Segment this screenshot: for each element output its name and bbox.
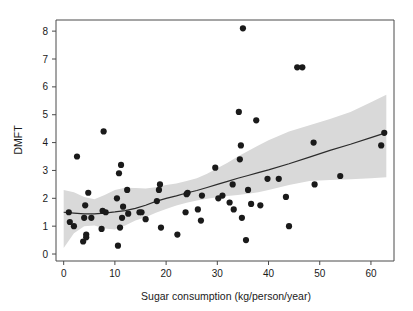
scatter-point	[236, 109, 242, 115]
scatter-point	[120, 204, 126, 210]
scatter-point	[227, 199, 233, 205]
y-axis-title: DMFT	[12, 125, 24, 155]
scatter-point	[238, 142, 244, 148]
scatter-point	[257, 202, 263, 208]
scatter-point	[82, 202, 88, 208]
confidence-band	[64, 95, 387, 248]
scatter-point	[378, 142, 384, 148]
scatter-point	[248, 201, 254, 207]
x-tick-label: 0	[61, 268, 67, 279]
scatter-point	[312, 181, 318, 187]
scatter-point	[88, 215, 94, 221]
scatter-point	[245, 187, 251, 193]
scatter-point	[116, 170, 122, 176]
scatter-point	[158, 224, 164, 230]
scatter-point	[66, 209, 72, 215]
scatter-point	[337, 173, 343, 179]
scatter-point	[157, 181, 163, 187]
y-tick-label: 5	[42, 109, 48, 120]
scatter-point	[185, 190, 191, 196]
scatter-point	[381, 130, 387, 136]
x-tick-label: 20	[161, 268, 173, 279]
scatter-point	[154, 198, 160, 204]
scatter-point	[276, 176, 282, 182]
scatter-point	[103, 209, 109, 215]
scatter-point	[286, 223, 292, 229]
scatter-point	[253, 117, 259, 123]
scatter-point	[199, 192, 205, 198]
y-tick-label: 2	[42, 193, 48, 204]
scatter-point	[114, 195, 120, 201]
scatter-point	[98, 226, 104, 232]
scatter-point	[143, 216, 149, 222]
confidence-band-group	[64, 95, 387, 248]
scatter-point	[230, 181, 236, 187]
y-axis-ticks: 012345678	[42, 26, 56, 260]
scatter-point	[124, 187, 130, 193]
scatter-plot-figure: 0102030405060 012345678 Sugar consumptio…	[0, 0, 413, 311]
scatter-point	[299, 64, 305, 70]
scatter-point	[74, 153, 80, 159]
scatter-point	[195, 206, 201, 212]
y-tick-label: 1	[42, 221, 48, 232]
y-tick-label: 3	[42, 165, 48, 176]
y-tick-label: 7	[42, 54, 48, 65]
scatter-point	[243, 237, 249, 243]
scatter-point	[125, 211, 131, 217]
scatter-point	[101, 128, 107, 134]
x-tick-label: 30	[212, 268, 224, 279]
scatter-point	[212, 165, 218, 171]
scatter-point	[239, 215, 245, 221]
scatter-point	[81, 215, 87, 221]
scatter-point	[264, 176, 270, 182]
scatter-point	[119, 215, 125, 221]
scatter-point	[219, 192, 225, 198]
chart-canvas: 0102030405060 012345678 Sugar consumptio…	[0, 0, 413, 311]
x-axis-title: Sugar consumption (kg/person/year)	[141, 290, 311, 302]
scatter-point	[237, 156, 243, 162]
scatter-point	[138, 209, 144, 215]
y-tick-label: 4	[42, 137, 48, 148]
x-tick-label: 10	[109, 268, 121, 279]
scatter-point	[240, 25, 246, 31]
scatter-point	[182, 209, 188, 215]
x-axis-ticks: 0102030405060	[61, 261, 377, 279]
scatter-point	[198, 218, 204, 224]
x-tick-label: 60	[365, 268, 377, 279]
scatter-point	[156, 187, 162, 193]
scatter-point	[174, 231, 180, 237]
scatter-point	[71, 223, 77, 229]
y-tick-label: 0	[42, 249, 48, 260]
scatter-point	[283, 194, 289, 200]
scatter-point	[85, 190, 91, 196]
scatter-point	[83, 234, 89, 240]
scatter-point	[311, 139, 317, 145]
scatter-point	[118, 162, 124, 168]
scatter-point	[117, 224, 123, 230]
x-tick-label: 40	[263, 268, 275, 279]
y-tick-label: 8	[42, 26, 48, 37]
x-tick-label: 50	[314, 268, 326, 279]
scatter-point	[115, 243, 121, 249]
scatter-point	[231, 206, 237, 212]
y-tick-label: 6	[42, 81, 48, 92]
